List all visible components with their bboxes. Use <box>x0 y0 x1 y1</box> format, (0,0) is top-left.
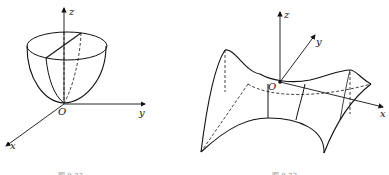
origin-point <box>278 80 282 84</box>
front-meridian <box>46 58 64 103</box>
x-label: x <box>10 140 16 151</box>
middle-rib-2 <box>296 84 305 120</box>
top-rim <box>27 32 107 60</box>
cross-section-line <box>46 33 81 58</box>
figures-canvas: z y x O 图 8-22 z y x O 图 8-23 <box>0 0 389 175</box>
x-axis-2 <box>280 82 383 107</box>
y-label-2: y <box>315 36 322 47</box>
saddle-left-edge <box>201 50 225 152</box>
caption-right: 图 8-23 <box>272 172 297 175</box>
z-label: z <box>68 6 75 17</box>
figure-saddle: z y x O 图 8-23 <box>201 9 386 175</box>
z-label-2: z <box>283 9 290 20</box>
hidden-left-diagonal <box>201 84 248 152</box>
x-label-2: x <box>380 108 386 119</box>
origin-label: O <box>58 106 66 117</box>
y-label: y <box>138 107 145 118</box>
figure-paraboloid: z y x O 图 8-22 <box>6 6 145 175</box>
caption-left: 图 8-22 <box>58 172 83 175</box>
saddle-bottom-edge <box>201 118 324 153</box>
paraboloid-outline <box>27 46 106 103</box>
saddle-top-edge <box>225 50 371 84</box>
y-axis-2 <box>280 35 315 82</box>
origin-label-2: O <box>268 81 276 92</box>
